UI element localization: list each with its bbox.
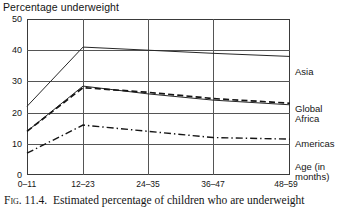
figure-container: Percentage underweight 50 40 30 20 10 0 …: [0, 0, 344, 212]
y-axis-tick-30: 30: [0, 76, 22, 86]
series-line-americas: [27, 125, 290, 153]
figure-number: Fig. 11.4.: [4, 194, 47, 206]
y-axis-tick-10: 10: [0, 139, 22, 149]
series-layer: [27, 19, 290, 175]
figure-caption-text: Estimated percentage of children who are…: [53, 194, 305, 206]
legend-label-americas: Americas: [295, 139, 335, 150]
y-axis-tick-20: 20: [0, 108, 22, 118]
legend-label-asia: Asia: [295, 67, 313, 78]
x-axis-tick-0-11: 0–11: [18, 179, 36, 189]
legend-label-africa: Africa: [295, 114, 319, 125]
figure-caption: Fig. 11.4. Estimated percentage of child…: [4, 194, 342, 206]
legend-label-age-line2: months): [295, 172, 329, 183]
series-line-africa: [27, 88, 290, 132]
series-line-global: [27, 86, 290, 131]
y-axis-tick-40: 40: [0, 45, 22, 55]
y-axis-tick-50: 50: [0, 14, 22, 24]
x-axis-tick-12-23: 12–23: [71, 179, 95, 189]
x-axis-tick-36-47: 36–47: [201, 179, 225, 189]
chart-title: Percentage underweight: [3, 1, 119, 13]
series-line-asia: [27, 47, 290, 106]
x-axis-tick-24-35: 24–35: [136, 179, 160, 189]
